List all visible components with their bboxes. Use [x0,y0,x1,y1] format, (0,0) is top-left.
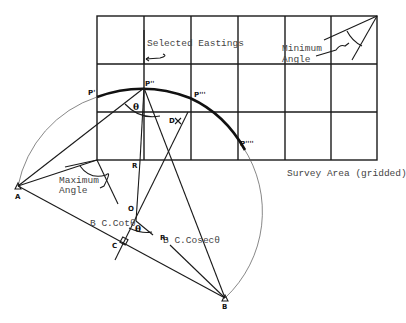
minimum-angle-label-2: Angle [282,54,311,65]
point-d-label: D [169,117,175,125]
point-p1-label: P' [88,89,95,97]
survey-area-label: Survey Area (gridded) [287,168,406,179]
b-cot-label: B C.Cotθ [90,218,136,229]
point-c-label: C [112,242,117,250]
point-p2-label: P'' [145,80,154,88]
b-cosec-label: B C.Cosecθ [163,235,220,246]
point-p4-label: P'''' [240,140,254,148]
point-d-marker [175,118,181,124]
minimum-angle-label-1: Minimum [282,43,322,54]
point-r-label: R [132,162,138,170]
point-r1-label: R₁ [160,234,168,242]
point-p3-label: P''' [194,91,206,99]
point-b-label: B [222,303,227,311]
point-a-label: A [15,193,21,201]
maximum-angle-label-2: Angle [59,185,88,196]
point-o-label: O [128,205,134,213]
circle-arc [18,97,262,298]
minimum-angle-marker [316,16,377,60]
selected-eastings-label: Selected Eastings [147,38,244,49]
survey-geometry-diagram: Selected Eastings Minimum Angle Maximum … [0,0,406,323]
theta-top-label: θ [133,102,139,112]
construction-lines [18,88,225,298]
theta-bottom-label: θ [135,224,141,234]
